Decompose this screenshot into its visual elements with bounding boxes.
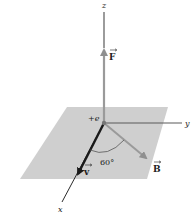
origin-label: +e: [88, 114, 100, 123]
svg-text:F: F: [109, 52, 116, 62]
y-axis-label: y: [184, 119, 190, 128]
svg-text:v: v: [83, 167, 90, 177]
vector-diagram: z y x +e 60° F v B: [0, 0, 194, 216]
svg-text:B: B: [153, 164, 161, 174]
x-axis-label: x: [58, 205, 63, 214]
f-label: F: [109, 49, 117, 62]
b-label: B: [153, 161, 161, 174]
z-axis-label: z: [101, 1, 107, 10]
angle-label: 60°: [100, 158, 114, 167]
origin-charge: [102, 121, 106, 125]
